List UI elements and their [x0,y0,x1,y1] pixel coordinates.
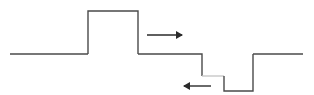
potential-diagram [0,0,314,95]
middle-baseline [138,54,202,76]
profile-line [10,11,303,91]
well [224,54,253,91]
barrier [88,11,138,54]
